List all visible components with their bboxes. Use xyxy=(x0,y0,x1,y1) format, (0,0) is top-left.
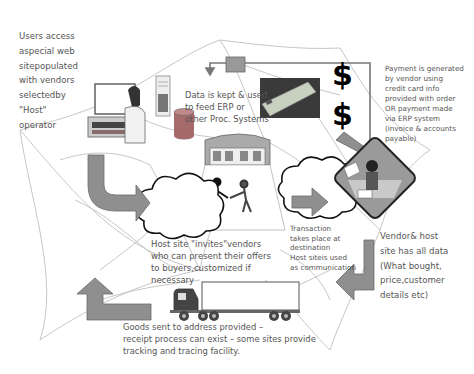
label-goods-sent: Goods sent to address provided – receipt… xyxy=(123,321,316,358)
server-icon xyxy=(156,76,170,116)
document-icon xyxy=(226,57,245,72)
label-payment: Payment is generated by vendor using cre… xyxy=(385,64,464,144)
label-vendor-host: Vendor& host site has all data (What bou… xyxy=(380,229,448,303)
label-transaction: Transaction takes place at destination H… xyxy=(290,224,356,273)
dollar-sign-icon: $ xyxy=(332,60,353,90)
label-host-invites: Host site "invites"vendors who can prese… xyxy=(151,238,271,286)
storefront-icon xyxy=(205,134,270,165)
truck-icon xyxy=(170,282,300,321)
computer-user-icon xyxy=(88,84,145,143)
credit-card-icon xyxy=(260,78,320,118)
label-data-kept: Data is kept & used to feed ERP or other… xyxy=(185,89,269,126)
label-users-access: Users access aspecial web sitepopulated … xyxy=(19,29,78,132)
dollar-sign-icon: $ xyxy=(332,100,353,130)
